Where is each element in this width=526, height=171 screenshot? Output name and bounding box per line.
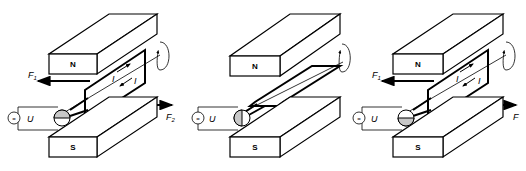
- voltage-label: U: [27, 114, 34, 124]
- force-label-f2: F: [513, 112, 519, 122]
- panel-right: N I I F1 F S = U: [353, 14, 519, 157]
- force-label-f1: F1: [372, 70, 381, 81]
- north-label: N: [415, 60, 421, 69]
- dc-symbol: =: [357, 116, 361, 122]
- dc-symbol: =: [12, 116, 16, 122]
- rotation-icon: [339, 44, 350, 72]
- current-label-bottom: I: [134, 76, 137, 86]
- commutator: [234, 110, 250, 126]
- south-pole: S: [230, 97, 340, 157]
- voltage-label: U: [371, 114, 378, 124]
- commutator: [54, 110, 70, 126]
- panel-left: N I I F1 F2 S = U: [8, 14, 176, 157]
- force-label-f2: F2: [166, 112, 176, 123]
- force-label-f1: F1: [28, 70, 37, 81]
- north-pole: N: [49, 14, 157, 74]
- north-label: N: [70, 60, 76, 69]
- panel-middle: N S = U: [192, 14, 350, 157]
- south-pole: S: [49, 97, 157, 157]
- north-label: N: [252, 62, 258, 71]
- dc-symbol: =: [196, 116, 200, 122]
- south-label: S: [252, 143, 258, 152]
- south-label: S: [70, 143, 76, 152]
- voltage-label: U: [209, 114, 216, 124]
- south-pole: S: [393, 97, 503, 157]
- north-pole: N: [393, 14, 503, 74]
- current-label-bottom: I: [478, 76, 481, 86]
- dc-motor-diagram: N I I F1 F2 S = U: [0, 0, 526, 171]
- south-label: S: [415, 143, 421, 152]
- commutator: [398, 110, 414, 126]
